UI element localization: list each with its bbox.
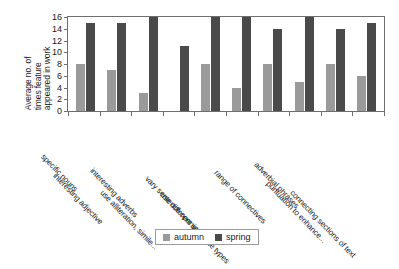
y-tick-label: 6	[37, 71, 62, 80]
bar-group	[132, 17, 163, 111]
bar-spring	[336, 29, 345, 111]
bar-group	[257, 17, 288, 111]
x-tick-label: range of connectives	[212, 169, 267, 226]
bar-group	[288, 17, 319, 111]
bar-spring	[305, 17, 314, 111]
y-tick-label: 10	[37, 48, 62, 57]
bar-autumn	[357, 76, 366, 111]
bar-autumn	[295, 82, 304, 111]
legend-label: autumn	[174, 232, 204, 242]
bar-spring	[86, 23, 95, 111]
legend-label: spring	[226, 232, 251, 242]
bar-group	[320, 17, 351, 111]
legend-swatch-icon	[215, 234, 222, 241]
bar-group	[101, 17, 132, 111]
y-tick-label: 2	[37, 95, 62, 104]
bar-group	[351, 17, 382, 111]
bar-autumn	[107, 70, 116, 111]
bar-autumn	[201, 64, 210, 111]
bar-group	[226, 17, 257, 111]
bar-spring	[117, 23, 126, 111]
bar-group	[164, 17, 195, 111]
bar-autumn	[232, 88, 241, 112]
y-tick-label: 14	[37, 24, 62, 33]
bar-spring	[180, 46, 189, 111]
chart-legend: autumnspring	[155, 229, 259, 245]
legend-swatch-icon	[163, 234, 170, 241]
bar-spring	[211, 17, 220, 111]
y-tick-label: 8	[37, 60, 62, 69]
bar-spring	[149, 17, 158, 111]
bar-autumn	[139, 93, 148, 111]
legend-item-spring[interactable]: spring	[215, 232, 251, 242]
bar-group	[195, 17, 226, 111]
bar-spring	[273, 29, 282, 111]
bar-autumn	[326, 64, 335, 111]
x-axis-tick-labels: specific nounsinteresting adjectiveinter…	[67, 114, 385, 214]
y-tick-label: 0	[37, 107, 62, 116]
y-tick-label: 12	[37, 36, 62, 45]
bar-chart: Average no. of times feature appeared in…	[0, 0, 399, 269]
bar-autumn	[263, 64, 272, 111]
y-tick-label: 4	[37, 83, 62, 92]
bar-spring	[367, 23, 376, 111]
bars-container	[68, 17, 384, 111]
x-tick-label: use alliteration, simile...	[98, 189, 159, 251]
x-tick-label: connecting sections of text	[288, 189, 356, 259]
bar-spring	[242, 17, 251, 111]
plot-area	[67, 16, 385, 112]
y-tick-label: 16	[37, 13, 62, 22]
legend-item-autumn[interactable]: autumn	[163, 232, 204, 242]
bar-group	[70, 17, 101, 111]
bar-autumn	[76, 64, 85, 111]
